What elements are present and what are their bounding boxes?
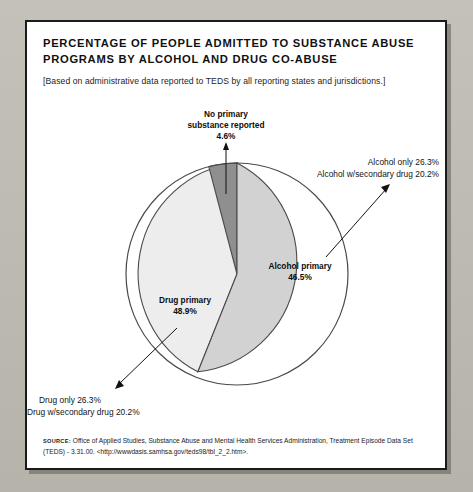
pie-slice-no-primary[interactable] <box>209 163 237 274</box>
chart-panel: PERCENTAGE OF PEOPLE ADMITTED TO SUBSTAN… <box>25 20 447 470</box>
slice-label-alcohol-primary-name: Alcohol primary <box>268 261 332 271</box>
leader-line-alcohol <box>326 188 387 257</box>
source-label: SOURCE: <box>43 438 71 444</box>
slice-label-alcohol-primary-value: 46.5% <box>288 272 312 282</box>
slice-label-drug-primary-value: 48.9% <box>173 306 197 316</box>
chart-subtitle: [Based on administrative data reported t… <box>43 76 429 87</box>
annotation-drug-line1: Drug only 26.3% <box>39 395 101 405</box>
figure-root: PERCENTAGE OF PEOPLE ADMITTED TO SUBSTAN… <box>0 0 473 492</box>
slice-label-no-primary-value: 4.6% <box>217 131 237 141</box>
slice-label-drug-primary-name: Drug primary <box>159 295 211 305</box>
leader-line-drug <box>118 328 177 385</box>
source-text: Office of Applied Studies, Substance Abu… <box>43 437 413 454</box>
annotation-alcohol-line1: Alcohol only 26.3% <box>368 157 440 167</box>
annotation-drug-line2: Drug w/secondary drug 20.2% <box>27 407 140 417</box>
pie-chart: Alcohol primary 46.5% Drug primary 48.9%… <box>27 22 445 468</box>
pie-slice-alcohol-primary[interactable] <box>198 163 297 372</box>
pie-slice-drug-primary[interactable] <box>138 163 237 372</box>
arrow-head-alcohol <box>381 184 390 193</box>
arrow-head-drug <box>115 380 124 389</box>
source-note: SOURCE: Office of Applied Studies, Subst… <box>43 436 431 456</box>
arrow-head-no-primary <box>223 142 229 150</box>
page-title: PERCENTAGE OF PEOPLE ADMITTED TO SUBSTAN… <box>43 36 429 67</box>
slice-label-no-primary-line2: substance reported <box>188 120 265 130</box>
annotation-alcohol-line2: Alcohol w/secondary drug 20.2% <box>317 169 440 179</box>
pie-outline <box>126 163 348 385</box>
slice-label-no-primary-line1: No primary <box>204 109 248 119</box>
panel-content: PERCENTAGE OF PEOPLE ADMITTED TO SUBSTAN… <box>27 22 445 468</box>
